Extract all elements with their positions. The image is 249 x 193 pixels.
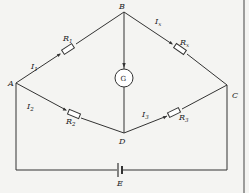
arrow-ix-icon [169,41,174,46]
resistor-label-r2: R2 [65,117,76,127]
node-label-e: E [116,179,123,188]
arrow-i3-icon [163,115,168,120]
branch-b-d [115,12,133,133]
galvanometer-label: G [121,75,127,83]
node-label-c: C [232,91,238,100]
node-label-d: D [118,137,126,146]
branch-d-c [124,85,227,133]
current-label-i2: I2 [26,102,34,112]
resistor-label-r3: R3 [178,113,189,123]
circuit-diagram: B A C D E G R1 Rx R2 R3 I1 Ix I2 I3 [0,0,249,193]
branch-b-c [124,12,227,85]
current-label-ix: Ix [154,17,162,27]
node-label-b: B [118,2,125,11]
current-label-i3: I3 [141,110,149,120]
current-label-i1: I1 [30,62,38,72]
resistor-label-r1: R1 [62,34,73,44]
resistor-r1 [62,44,75,55]
arrow-i1-icon [57,52,62,57]
arrow-down-icon [122,63,125,68]
resistor-label-rx: Rx [179,38,190,48]
battery-branch [16,83,227,177]
node-label-a: A [7,79,14,88]
branch-a-b [16,12,124,83]
